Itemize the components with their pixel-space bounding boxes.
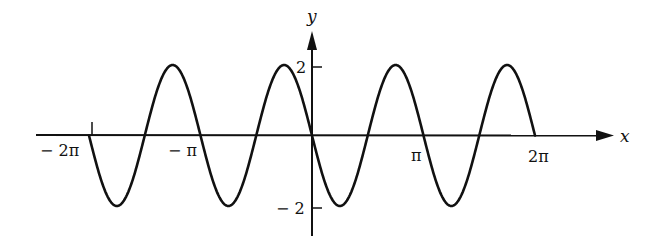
y-axis-label: y	[306, 6, 317, 26]
y-axis-arrow-icon	[307, 31, 317, 50]
x-axis-arrow-icon	[596, 130, 614, 141]
x-axis	[36, 135, 598, 136]
x-tick-label-neg2pi: − 2π	[40, 141, 79, 160]
sine-chart: x y 2 − 2 − 2π − π π 2π	[0, 0, 664, 252]
y-tick-label-2: 2	[296, 58, 306, 77]
y-ticks: 2 − 2	[276, 58, 322, 218]
x-tick-label-pi: π	[411, 146, 422, 165]
x-axis-label: x	[620, 126, 630, 146]
x-tick-label-negpi: − π	[168, 141, 197, 160]
x-tick-label-2pi: 2π	[528, 147, 549, 166]
y-tick-label-neg2: − 2	[276, 199, 305, 218]
